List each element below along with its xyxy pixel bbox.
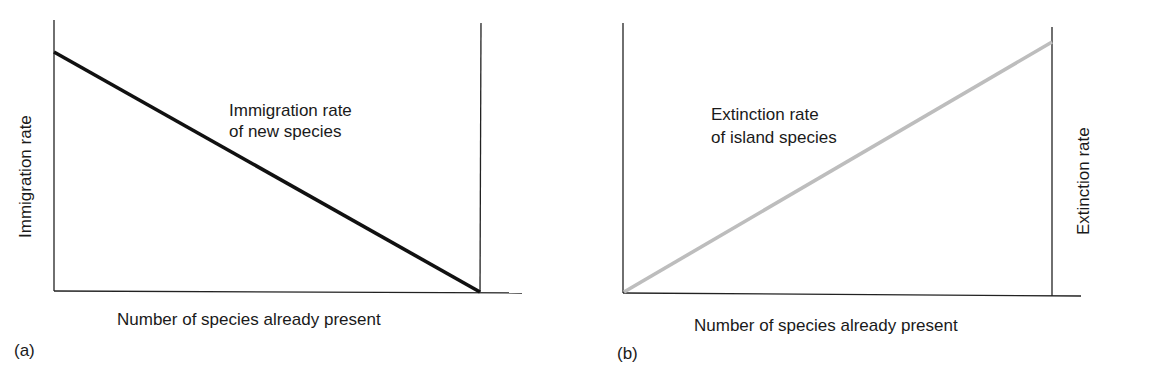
- panel-b-extinction-line: [624, 42, 1052, 292]
- panel-b-axes: [623, 23, 1081, 296]
- panel-b-annotation-line1: Extinction rate: [711, 105, 819, 125]
- panel-a-tag: (a): [14, 341, 35, 361]
- panel-a-right-boundary: [480, 23, 481, 292]
- panel-b-annotation-line2: of island species: [711, 128, 837, 148]
- panel-a-x-axis: [54, 291, 522, 293]
- panel-a-annotation-line1: Immigration rate: [229, 101, 352, 121]
- panel-b-x-axis-label: Number of species already present: [694, 316, 958, 336]
- figure-canvas: [0, 0, 1164, 390]
- panel-a-annotation-line2: of new species: [229, 122, 341, 142]
- panel-b-y-axis-label: Extinction rate: [1074, 127, 1094, 235]
- panel-b-x-axis: [623, 293, 1081, 296]
- panel-a-axes: [54, 20, 522, 293]
- panel-a-x-axis-label: Number of species already present: [117, 310, 381, 330]
- panel-a-y-axis-label: Immigration rate: [16, 115, 36, 238]
- panel-b-tag: (b): [617, 344, 638, 364]
- panel-a-immigration-line: [54, 52, 480, 292]
